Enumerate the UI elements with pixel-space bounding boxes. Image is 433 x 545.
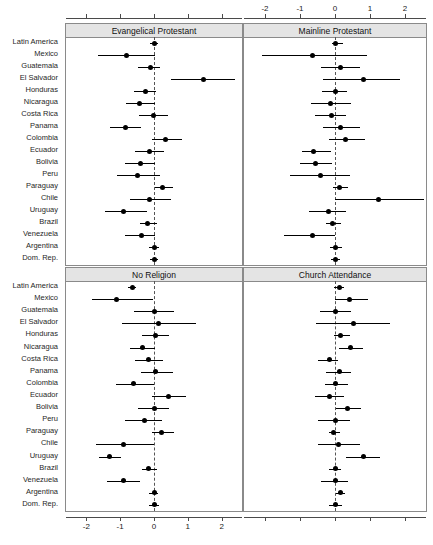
estimate-point — [333, 89, 338, 94]
panel-strip-title: No Religion — [66, 268, 242, 282]
panel-church-attendance: Church Attendance — [243, 267, 427, 512]
top-axis-tick — [335, 14, 336, 18]
estimate-point — [143, 89, 148, 94]
top-left-minor-axis-tick — [154, 14, 155, 18]
country-label: Brazil — [39, 463, 58, 472]
panel-strip-title: Mainline Protestant — [244, 24, 426, 38]
bottom-right-minor-axis-tick — [405, 517, 406, 521]
bottom-axis-tick — [86, 517, 87, 521]
estimate-point — [201, 77, 206, 82]
estimate-point — [121, 442, 126, 447]
plot-area — [244, 281, 426, 511]
country-label: Bolivia — [36, 157, 58, 166]
estimate-point — [333, 381, 338, 386]
estimate-point — [145, 221, 150, 226]
estimate-point — [130, 285, 135, 290]
country-label: Dom. Rep. — [22, 253, 58, 262]
bottom-axis-tick-label: 1 — [178, 522, 198, 531]
estimate-point — [338, 333, 343, 338]
estimate-point — [328, 101, 333, 106]
estimate-point — [142, 418, 147, 423]
country-label: Peru — [42, 414, 58, 423]
estimate-point — [333, 309, 338, 314]
bottom-right-minor-axis-tick — [335, 517, 336, 521]
estimate-point — [163, 137, 168, 142]
estimate-point — [135, 173, 140, 178]
estimate-point — [114, 297, 119, 302]
estimate-point — [329, 113, 334, 118]
bottom-axis-tick — [154, 517, 155, 521]
estimate-point — [338, 65, 343, 70]
top-axis-tick-label: 0 — [325, 4, 345, 13]
estimate-point — [159, 430, 164, 435]
estimate-point — [152, 406, 157, 411]
top-left-minor-axis-line — [66, 18, 242, 19]
country-label: Uruguay — [30, 451, 58, 460]
country-label: Mexico — [34, 49, 58, 58]
top-axis-tick — [265, 14, 266, 18]
estimate-point — [337, 185, 342, 190]
country-label: Panama — [30, 366, 58, 375]
country-label-column: Latin AmericaMexicoGuatemalaEl SalvadorH… — [0, 0, 62, 545]
estimate-point — [326, 209, 331, 214]
top-axis-tick — [300, 14, 301, 18]
country-label: El Salvador — [20, 73, 58, 82]
estimate-point — [152, 41, 157, 46]
estimate-point — [330, 221, 335, 226]
top-left-minor-axis-tick — [120, 14, 121, 18]
panel-strip-title: Evangelical Protestant — [66, 24, 242, 38]
estimate-point — [327, 357, 332, 362]
country-label: Dom. Rep. — [22, 499, 58, 508]
country-label: Panama — [30, 121, 58, 130]
estimate-point — [148, 65, 153, 70]
top-left-minor-axis-tick — [188, 14, 189, 18]
bottom-axis-tick — [222, 517, 223, 521]
estimate-point — [153, 333, 158, 338]
estimate-point — [348, 345, 353, 350]
estimate-point — [121, 209, 126, 214]
confidence-interval-bar — [92, 299, 154, 300]
estimate-point — [131, 381, 136, 386]
estimate-point — [152, 245, 157, 250]
estimate-point — [151, 113, 156, 118]
estimate-point — [313, 161, 318, 166]
country-label: Colombia — [26, 378, 58, 387]
estimate-point — [331, 430, 336, 435]
country-label: Venezuela — [23, 229, 58, 238]
country-label: Ecuador — [30, 145, 58, 154]
plot-area — [244, 37, 426, 265]
panel-strip-title: Church Attendance — [244, 268, 426, 282]
country-label: Guatemala — [21, 305, 58, 314]
panel-no-religion: No Religion — [65, 267, 243, 512]
estimate-point — [351, 321, 356, 326]
country-label: Honduras — [25, 329, 58, 338]
estimate-point — [137, 101, 142, 106]
country-label: Latin America — [13, 37, 58, 46]
estimate-point — [337, 285, 342, 290]
country-label: Guatemala — [21, 61, 58, 70]
top-left-minor-axis-tick — [222, 14, 223, 18]
estimate-point — [140, 345, 145, 350]
estimate-point — [146, 466, 151, 471]
country-label: Brazil — [39, 217, 58, 226]
estimate-point — [318, 173, 323, 178]
estimate-point — [333, 257, 338, 262]
estimate-point — [338, 490, 343, 495]
bottom-axis-tick — [120, 517, 121, 521]
bottom-axis-tick-label: -1 — [110, 522, 130, 531]
country-label: Costa Rica — [21, 109, 58, 118]
estimate-point — [121, 478, 126, 483]
estimate-point — [376, 197, 381, 202]
confidence-interval-bar — [105, 211, 147, 212]
estimate-point — [124, 53, 129, 58]
country-label: Peru — [42, 169, 58, 178]
country-label: Costa Rica — [21, 354, 58, 363]
estimate-point — [327, 394, 332, 399]
bottom-right-minor-axis-tick — [265, 517, 266, 521]
country-label: Latin America — [13, 281, 58, 290]
country-label: Bolivia — [36, 402, 58, 411]
estimate-point — [166, 394, 171, 399]
estimate-point — [152, 257, 157, 262]
estimate-point — [152, 309, 157, 314]
bottom-right-minor-axis-tick — [300, 517, 301, 521]
